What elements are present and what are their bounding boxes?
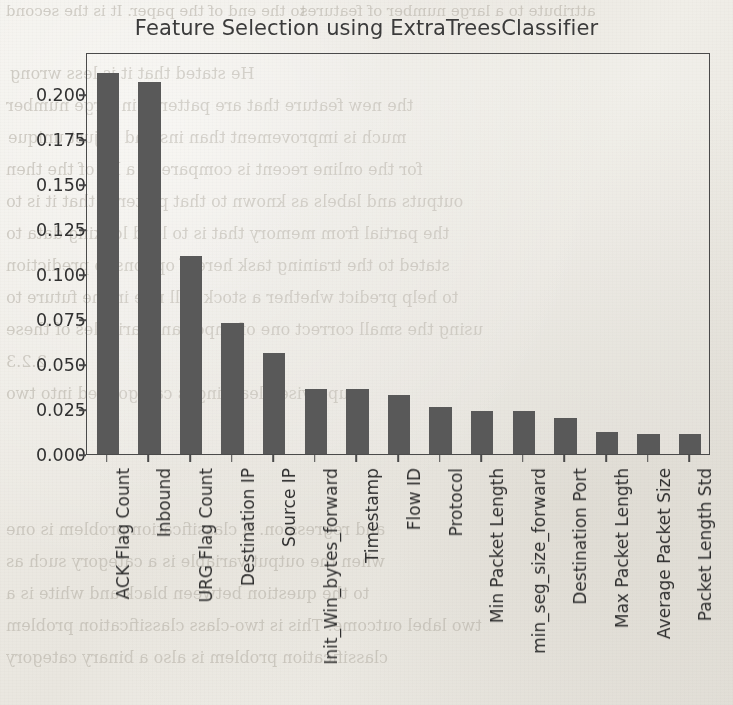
x-axis-tick-label: min_seg_size_forward [529, 468, 549, 654]
y-axis-tick-mark [79, 229, 86, 231]
bar [97, 73, 119, 454]
y-axis-tick-mark [79, 409, 86, 411]
y-axis-tick-label: 0.100 [24, 265, 86, 285]
y-axis-tick-marks [79, 0, 86, 705]
x-axis-tick-label: ACK Flag Count [113, 468, 133, 599]
y-axis: 0.0000.0250.0500.0750.1000.1250.1500.175… [0, 0, 86, 705]
bar [263, 353, 285, 454]
x-axis-tick-label: Flow ID [404, 468, 424, 530]
plot-area [86, 53, 710, 455]
bar [679, 434, 701, 454]
x-axis-tick-label: Packet Length Std [695, 468, 715, 621]
bar [305, 389, 327, 454]
x-axis-tick-mark [480, 455, 482, 462]
x-axis-tick-label: Init_Win_bytes_forward [321, 468, 341, 665]
y-axis-tick-label: 0.125 [24, 220, 86, 240]
x-axis-tick-mark [647, 455, 649, 462]
bar [429, 407, 451, 454]
y-axis-tick-mark [79, 364, 86, 366]
x-axis-tick-label: Destination IP [238, 468, 258, 586]
bar [596, 432, 618, 454]
bar [138, 82, 160, 454]
x-axis-tick-mark [356, 455, 358, 462]
y-axis-tick-mark [79, 319, 86, 321]
bar [180, 256, 202, 454]
x-axis-tick-label: Max Packet Length [612, 468, 632, 628]
x-axis-tick-label: Timestamp [362, 468, 382, 563]
y-axis-tick-mark [79, 454, 86, 456]
y-axis-tick-label: 0.150 [24, 175, 86, 195]
x-axis-tick-mark [231, 455, 233, 462]
bar [346, 389, 368, 454]
bar [554, 418, 576, 454]
y-axis-tick-mark [79, 94, 86, 96]
bar-chart: Feature Selection using ExtraTreesClassi… [0, 0, 733, 705]
bar [637, 434, 659, 454]
x-axis-tick-mark [397, 455, 399, 462]
x-axis-tick-mark [688, 455, 690, 462]
x-axis-tick-mark [522, 455, 524, 462]
bar [221, 323, 243, 454]
x-axis-tick-label: Inbound [154, 468, 174, 537]
x-axis-tick-label: Source IP [279, 468, 299, 547]
bar [513, 411, 535, 454]
x-axis-tick-mark [106, 455, 108, 462]
y-axis-tick-label: 0.075 [24, 310, 86, 330]
y-axis-tick-label: 0.050 [24, 355, 86, 375]
x-axis-tick-label: Destination Port [570, 468, 590, 605]
x-axis-tick-label: Min Packet Length [487, 468, 507, 623]
y-axis-tick-label: 0.000 [24, 445, 86, 465]
y-axis-tick-label: 0.025 [24, 400, 86, 420]
x-axis-tick-label: Average Packet Size [654, 468, 674, 639]
y-axis-tick-mark [79, 139, 86, 141]
x-axis-tick-mark [314, 455, 316, 462]
x-axis-tick-mark [148, 455, 150, 462]
y-axis-tick-mark [79, 184, 86, 186]
x-axis-tick-mark [189, 455, 191, 462]
bar [388, 395, 410, 454]
x-axis-tick-mark [564, 455, 566, 462]
y-axis-tick-label: 0.200 [24, 85, 86, 105]
y-axis-tick-mark [79, 274, 86, 276]
bar [471, 411, 493, 454]
x-axis-tick-label: URG Flag Count [196, 468, 216, 602]
y-axis-tick-label: 0.175 [24, 130, 86, 150]
x-axis-tick-mark [605, 455, 607, 462]
chart-title: Feature Selection using ExtraTreesClassi… [0, 16, 733, 40]
bar-series [87, 54, 709, 454]
x-axis-tick-mark [439, 455, 441, 462]
x-axis-tick-label: Protocol [446, 468, 466, 537]
x-axis-tick-mark [272, 455, 274, 462]
